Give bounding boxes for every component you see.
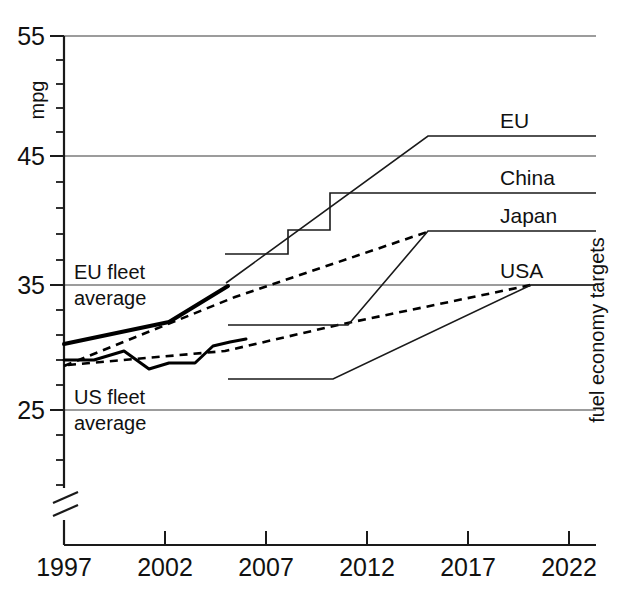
series-label-usa: USA bbox=[500, 259, 543, 282]
series-label-japan: Japan bbox=[500, 204, 557, 227]
series-label-china: China bbox=[500, 166, 555, 189]
annotation-us-fleet-line2: average bbox=[74, 412, 146, 434]
y-tick-label-25: 25 bbox=[17, 396, 45, 424]
y-axis-title: mpg bbox=[26, 81, 48, 120]
x-tick-label-1997: 1997 bbox=[36, 553, 92, 581]
y-tick-label-45: 45 bbox=[17, 142, 45, 170]
chart-figure: 55 45 35 25 mpg 1997 2002 2007 2012 2017… bbox=[0, 0, 625, 600]
y-tick-label-55: 55 bbox=[17, 22, 45, 50]
x-tick-label-2002: 2002 bbox=[137, 553, 193, 581]
annotation-eu-fleet-line2: average bbox=[74, 287, 146, 309]
x-tick-label-2017: 2017 bbox=[440, 553, 496, 581]
y-tick-label-35: 35 bbox=[17, 271, 45, 299]
annotation-us-fleet-line1: US fleet bbox=[74, 386, 146, 408]
right-axis-title: fuel economy targets bbox=[586, 237, 608, 423]
x-tick-label-2022: 2022 bbox=[541, 553, 597, 581]
annotation-eu-fleet-line1: EU fleet bbox=[74, 261, 146, 283]
fuel-economy-targets-chart: 55 45 35 25 mpg 1997 2002 2007 2012 2017… bbox=[0, 0, 625, 600]
x-tick-label-2012: 2012 bbox=[339, 553, 395, 581]
x-tick-label-2007: 2007 bbox=[238, 553, 294, 581]
series-label-eu: EU bbox=[500, 109, 529, 132]
